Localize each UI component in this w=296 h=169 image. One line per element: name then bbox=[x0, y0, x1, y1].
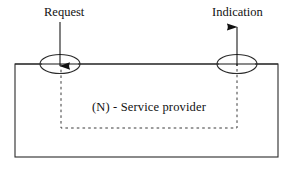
service-provider-diagram: Request Indication (N) - Service provide… bbox=[0, 0, 296, 169]
inner-dashed-region bbox=[61, 64, 237, 128]
request-label: Request bbox=[44, 6, 84, 19]
diagram-canvas bbox=[0, 0, 296, 169]
indication-label: Indication bbox=[212, 6, 263, 19]
service-provider-label: (N) - Service provider bbox=[92, 101, 206, 114]
